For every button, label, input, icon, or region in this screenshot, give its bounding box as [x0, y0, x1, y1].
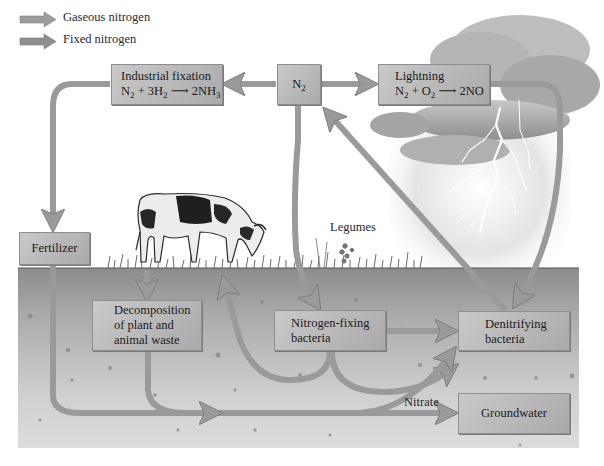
- lightning-equation: N2 + O2 ⟶ 2NO: [395, 84, 484, 99]
- denitrifying-line-2: bacteria: [485, 332, 547, 347]
- box-industrial-fixation: Industrial fixation N2 + 3H2 ⟶ 2NH3: [111, 64, 223, 105]
- lightning-title: Lightning: [395, 69, 484, 84]
- legend-arrow-fixed-icon: [20, 34, 56, 49]
- fertilizer-label: Fertilizer: [20, 241, 89, 256]
- arrow-nitrogen-fixing-to-nitrate: [332, 351, 450, 392]
- nitrogen-fixing-line-1: Nitrogen-fixing: [291, 316, 369, 331]
- box-groundwater: Groundwater: [458, 393, 570, 434]
- groundwater-label: Groundwater: [459, 406, 569, 421]
- nitrate-label: Nitrate: [404, 395, 439, 410]
- decomposition-line-2: of plant and: [114, 318, 190, 333]
- legend-label: Gaseous nitrogen: [63, 10, 150, 25]
- legumes-label: Legumes: [330, 220, 376, 235]
- legend-label: Fixed nitrogen: [63, 32, 136, 47]
- box-n2: N2: [277, 64, 321, 105]
- box-denitrifying-bacteria: Denitrifying bacteria: [458, 311, 570, 351]
- box-fertilizer: Fertilizer: [19, 232, 90, 265]
- decomposition-line-3: animal waste: [114, 333, 190, 348]
- legend-arrows: [20, 12, 56, 49]
- arrow-decomposition-to-nitrate: [148, 351, 212, 413]
- industrial-fixation-title: Industrial fixation: [121, 69, 221, 84]
- arrow-lightning-to-denitrifying: [490, 84, 560, 300]
- box-lightning: Lightning N2 + O2 ⟶ 2NO: [378, 64, 490, 105]
- arrow-industrial-to-fertilizer: [53, 84, 110, 222]
- box-decomposition: Decomposition of plant and animal waste: [92, 300, 202, 351]
- decomposition-line-1: Decomposition: [114, 303, 190, 318]
- box-nitrogen-fixing-bacteria: Nitrogen-fixing bacteria: [274, 310, 386, 351]
- industrial-fixation-equation: N2 + 3H2 ⟶ 2NH3: [121, 84, 221, 99]
- arrow-denitrifying-to-n2: [330, 115, 505, 310]
- n2-label: N2: [278, 77, 320, 92]
- denitrifying-line-1: Denitrifying: [485, 317, 547, 332]
- legend-arrow-gaseous-icon: [20, 12, 56, 27]
- arrow-n2-to-nitrogen-fixing: [295, 105, 315, 302]
- nitrogen-fixing-line-2: bacteria: [291, 331, 369, 346]
